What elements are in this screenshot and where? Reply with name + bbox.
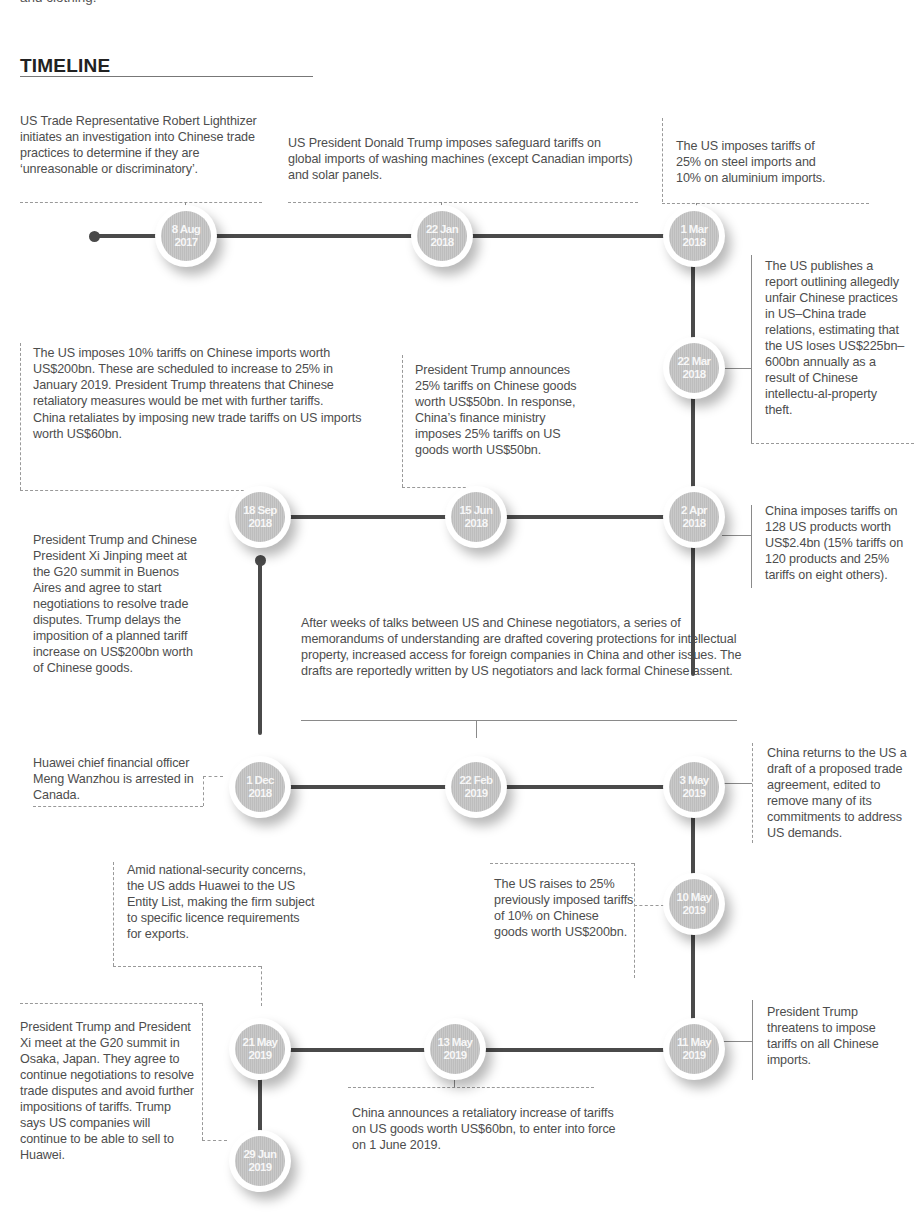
date-day-month: 15 Jun	[460, 504, 493, 517]
connector-line	[20, 343, 21, 490]
date-node: 22 Mar2018	[663, 337, 725, 399]
date-year: 2017	[174, 236, 197, 249]
connector-line	[634, 863, 635, 978]
connector-line	[751, 443, 914, 444]
event-description: President Trump announces 25% tariffs on…	[415, 362, 585, 458]
date-node: 22 Feb2019	[445, 756, 507, 818]
connector-line	[722, 1041, 752, 1042]
event-description: President Trump and Chinese President Xi…	[33, 532, 201, 676]
date-day-month: 1 Mar	[680, 223, 707, 236]
intro-text-fragment: and clothing.	[20, 0, 97, 5]
event-description: The US imposes tariffs of 25% on steel i…	[676, 138, 836, 186]
date-year: 2019	[682, 1049, 705, 1062]
event-description: Huawei chief financial officer Meng Wanz…	[33, 755, 201, 803]
date-day-month: 11 May	[677, 1036, 711, 1049]
connector-line	[751, 505, 752, 588]
event-description: The US imposes 10% tariffs on Chinese im…	[33, 345, 373, 409]
event-description: The US raises to 25% previously imposed …	[494, 876, 634, 940]
date-day-month: 29 Jun	[244, 1148, 277, 1161]
connector-line	[662, 203, 869, 204]
connector-line	[261, 966, 262, 1006]
connector-line	[490, 863, 634, 864]
date-day-month: 8 Aug	[172, 223, 201, 236]
date-day-month: 13 May	[438, 1036, 473, 1049]
date-year: 2018	[464, 517, 487, 530]
connector-line	[20, 202, 262, 203]
title-underline	[20, 76, 313, 77]
date-node: 13 May2019	[424, 1018, 486, 1080]
date-year: 2019	[248, 1049, 271, 1062]
connector-line	[722, 783, 752, 784]
date-year: 2018	[430, 236, 453, 249]
event-description: Amid national-security concerns, the US …	[127, 862, 317, 942]
timeline-track	[691, 236, 695, 676]
date-day-month: 18 Sep	[243, 504, 276, 517]
date-year: 2019	[682, 904, 705, 917]
connector-line	[348, 1087, 594, 1088]
date-day-month: 22 Feb	[460, 774, 493, 787]
connector-line	[288, 202, 638, 203]
connector-line	[301, 720, 737, 721]
event-description: President Trump threatens to impose tari…	[767, 1004, 897, 1068]
connector-line	[202, 1140, 227, 1141]
date-node: 1 Mar2018	[663, 205, 725, 267]
event-description: After weeks of talks between US and Chin…	[301, 615, 751, 679]
connector-line	[20, 490, 259, 491]
date-day-month: 22 Mar	[678, 355, 711, 368]
date-year: 2019	[248, 1161, 271, 1174]
event-description: China retaliates by imposing new trade t…	[33, 410, 373, 442]
date-node: 2 Apr2018	[663, 486, 725, 548]
date-day-month: 1 Dec	[246, 774, 274, 787]
date-node: 22 Jan2018	[411, 205, 473, 267]
date-node: 21 May2019	[229, 1018, 291, 1080]
date-day-month: 21 May	[243, 1036, 278, 1049]
event-description: US President Donald Trump imposes safegu…	[288, 135, 633, 183]
connector-line	[752, 743, 753, 843]
connector-line	[113, 862, 114, 966]
date-year: 2018	[248, 787, 271, 800]
event-description: China returns to the US a draft of a pro…	[767, 745, 914, 841]
date-node: 15 Jun2018	[445, 486, 507, 548]
connector-line	[203, 776, 204, 806]
connector-line	[202, 1003, 203, 1140]
date-node: 11 May2019	[663, 1018, 725, 1080]
connector-line	[402, 355, 403, 487]
date-node: 8 Aug2017	[155, 205, 217, 267]
date-year: 2018	[248, 517, 271, 530]
timeline-track	[258, 560, 262, 735]
connector-line	[203, 776, 223, 777]
connector-line	[33, 806, 203, 807]
date-node: 29 Jun2019	[229, 1130, 291, 1192]
date-node: 10 May2019	[663, 873, 725, 935]
connector-line	[20, 1003, 202, 1004]
connector-line	[662, 118, 663, 202]
event-description: The US publishes a report outlining alle…	[765, 258, 905, 418]
event-description: China announces a retaliatory increase o…	[352, 1105, 622, 1153]
connector-line	[476, 720, 477, 738]
date-node: 3 May2019	[663, 756, 725, 818]
date-node: 1 Dec2018	[229, 756, 291, 818]
section-title: TIMELINE	[20, 55, 110, 77]
connector-line	[634, 905, 664, 906]
date-day-month: 10 May	[677, 891, 712, 904]
date-year: 2019	[682, 787, 705, 800]
event-description: President Trump and President Xi meet at…	[20, 1019, 195, 1163]
connector-line	[722, 535, 751, 536]
date-year: 2018	[682, 517, 705, 530]
connector-line	[752, 1000, 753, 1080]
connector-line	[113, 966, 261, 967]
event-description: US Trade Representative Robert Lighthize…	[20, 113, 275, 177]
event-description: China imposes tariffs on 128 US products…	[765, 503, 914, 583]
date-day-month: 3 May	[680, 774, 709, 787]
connector-line	[751, 255, 752, 443]
date-year: 2019	[443, 1049, 466, 1062]
date-year: 2019	[464, 787, 487, 800]
connector-line	[722, 368, 751, 369]
date-node: 18 Sep2018	[229, 486, 291, 548]
date-day-month: 22 Jan	[426, 223, 458, 236]
date-day-month: 2 Apr	[681, 504, 707, 517]
date-year: 2018	[682, 236, 705, 249]
date-year: 2018	[682, 368, 705, 381]
